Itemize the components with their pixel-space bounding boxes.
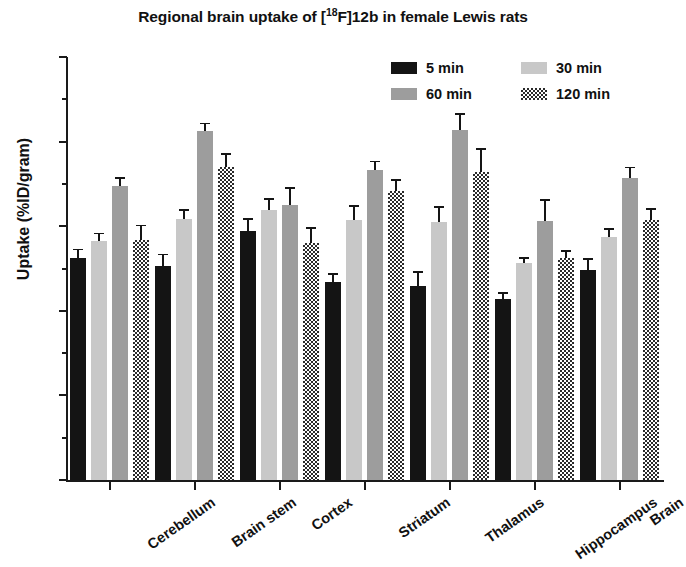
x-axis-category-label: Brain stem xyxy=(228,494,299,550)
error-bar-stem xyxy=(162,254,164,267)
error-bar-cap xyxy=(115,177,125,179)
legend-item: 5 min xyxy=(391,60,464,76)
legend-label: 60 min xyxy=(426,86,472,102)
chart-legend: 5 min30 min60 min120 min xyxy=(391,60,641,110)
chart-title: Regional brain uptake of [18F]12b in fem… xyxy=(0,6,666,26)
bar xyxy=(70,258,86,480)
x-axis-tick xyxy=(109,481,111,490)
bar xyxy=(133,240,149,480)
error-bar-cap xyxy=(583,258,593,260)
error-bar-stem xyxy=(544,199,546,221)
legend-swatch xyxy=(391,62,417,74)
bar xyxy=(495,299,511,480)
bar xyxy=(197,131,213,480)
bar xyxy=(240,231,256,480)
error-bar-cap xyxy=(625,167,635,169)
bar xyxy=(643,220,659,480)
error-bar-cap xyxy=(179,209,189,211)
x-axis-category-label: Cerebellum xyxy=(144,494,218,552)
error-bar-stem xyxy=(247,218,249,231)
error-bar-cap xyxy=(264,198,274,200)
error-bar-cap xyxy=(306,227,316,229)
error-bar-cap xyxy=(158,254,168,256)
error-bar-stem xyxy=(395,179,397,191)
y-axis-major-tick xyxy=(59,141,67,143)
error-bar-cap xyxy=(646,208,656,210)
error-bar-stem xyxy=(310,227,312,243)
bar xyxy=(516,263,532,480)
x-axis-category-label: Hippocampus xyxy=(572,494,660,562)
bar xyxy=(91,241,107,480)
x-axis-tick xyxy=(364,481,366,490)
x-axis-category-label: Thalamus xyxy=(482,494,547,546)
x-axis-tick xyxy=(449,481,451,490)
bar xyxy=(580,270,596,480)
bar xyxy=(452,130,468,480)
y-axis-minor-tick xyxy=(62,352,67,354)
error-bar-cap xyxy=(604,228,614,230)
legend-label: 5 min xyxy=(426,60,464,76)
bar xyxy=(261,210,277,480)
y-axis-minor-tick xyxy=(62,98,67,100)
bar xyxy=(325,282,341,480)
error-bar-stem xyxy=(480,148,482,172)
y-axis-title: Uptake (%ID/gram) xyxy=(15,99,33,319)
error-bar-stem xyxy=(459,113,461,130)
x-axis-category-label: Cortex xyxy=(308,494,355,533)
error-bar-cap xyxy=(498,292,508,294)
legend-label: 120 min xyxy=(556,86,610,102)
error-bar-stem xyxy=(225,153,227,167)
error-bar-stem xyxy=(353,205,355,220)
bar xyxy=(431,222,447,480)
bar xyxy=(558,258,574,480)
bar xyxy=(388,191,404,480)
error-bar-cap xyxy=(136,225,146,227)
legend-item: 120 min xyxy=(521,86,610,102)
error-bar-cap xyxy=(221,153,231,155)
x-axis-tick xyxy=(194,481,196,490)
error-bar-stem xyxy=(438,206,440,222)
x-axis-tick xyxy=(534,481,536,490)
error-bar-cap xyxy=(328,273,338,275)
y-axis-major-tick xyxy=(59,225,67,227)
chart-title-superscript: 18 xyxy=(326,6,337,18)
error-bar-stem xyxy=(289,187,291,205)
error-bar-cap xyxy=(94,233,104,235)
y-axis-minor-tick xyxy=(62,183,67,185)
y-axis-minor-tick xyxy=(62,437,67,439)
legend-label: 30 min xyxy=(556,60,602,76)
bar xyxy=(218,167,234,480)
bar xyxy=(537,221,553,480)
bar xyxy=(155,266,171,480)
bar xyxy=(282,205,298,480)
x-axis-tick xyxy=(619,481,621,490)
plot-area: CerebellumBrain stemCortexStriatumThalam… xyxy=(68,57,664,480)
y-axis-major-tick xyxy=(59,479,67,481)
error-bar-cap xyxy=(476,148,486,150)
chart-title-before: Regional brain uptake of [ xyxy=(138,8,326,25)
error-bar-cap xyxy=(519,257,529,259)
error-bar-cap xyxy=(73,249,83,251)
error-bar-stem xyxy=(140,225,142,241)
error-bar-cap xyxy=(561,250,571,252)
bar xyxy=(346,220,362,480)
error-bar-cap xyxy=(349,205,359,207)
bar xyxy=(473,172,489,480)
legend-swatch xyxy=(521,88,547,100)
legend-item: 30 min xyxy=(521,60,602,76)
error-bar-stem xyxy=(417,271,419,286)
bar xyxy=(410,286,426,480)
error-bar-cap xyxy=(434,206,444,208)
bar xyxy=(367,170,383,480)
x-axis-tick xyxy=(279,481,281,490)
chart-title-after: F]12b in female Lewis rats xyxy=(337,8,527,25)
error-bar-cap xyxy=(243,218,253,220)
legend-swatch xyxy=(391,88,417,100)
error-bar-cap xyxy=(455,113,465,115)
error-bar-cap xyxy=(391,179,401,181)
error-bar-cap xyxy=(200,123,210,125)
bar xyxy=(622,178,638,480)
y-axis-major-tick xyxy=(59,56,67,58)
y-axis-major-tick xyxy=(59,310,67,312)
